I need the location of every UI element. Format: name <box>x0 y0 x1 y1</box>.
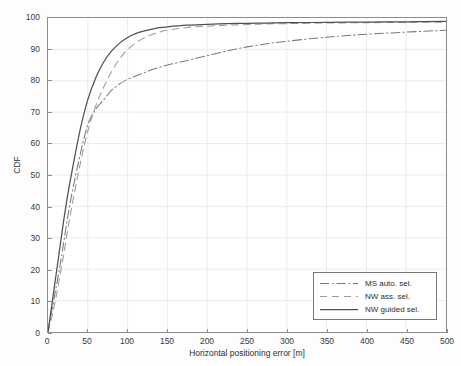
x-tick-label: 450 <box>400 336 414 346</box>
legend-line-sample <box>319 291 359 302</box>
legend-label: NW guided sel. <box>365 305 419 314</box>
legend-label: NW ass. sel. <box>365 292 410 301</box>
y-tick-mark <box>48 207 52 208</box>
x-tick-mark <box>127 329 128 333</box>
y-tick-mark <box>48 301 52 302</box>
y-tick-mark <box>48 112 52 113</box>
x-tick-mark <box>167 329 168 333</box>
x-tick-label: 300 <box>280 336 294 346</box>
y-tick-mark <box>48 49 52 50</box>
legend: MS auto. sel.NW ass. sel.NW guided sel. <box>313 272 437 320</box>
x-tick-label: 200 <box>200 336 214 346</box>
y-tick-label: 30 <box>6 233 40 243</box>
x-tick-label: 100 <box>120 336 134 346</box>
y-tick-label: 40 <box>6 202 40 212</box>
y-tick-label: 100 <box>6 12 40 22</box>
x-tick-mark <box>247 329 248 333</box>
x-tick-mark <box>367 329 368 333</box>
legend-line-sample <box>319 278 359 289</box>
x-axis-label: Horizontal positioning error [m] <box>47 348 447 358</box>
x-tick-mark <box>287 329 288 333</box>
y-tick-mark <box>48 175 52 176</box>
y-tick-mark <box>48 17 52 18</box>
x-tick-label: 150 <box>160 336 174 346</box>
x-tick-mark <box>87 329 88 333</box>
legend-label: MS auto. sel. <box>365 279 412 288</box>
y-axis-label: CDF <box>12 135 22 195</box>
x-tick-label: 500 <box>440 336 454 346</box>
legend-item-1: NW ass. sel. <box>319 290 431 303</box>
y-tick-mark <box>48 238 52 239</box>
x-tick-mark <box>327 329 328 333</box>
x-tick-label: 0 <box>45 336 50 346</box>
x-tick-label: 250 <box>240 336 254 346</box>
x-tick-mark <box>447 329 448 333</box>
y-tick-label: 0 <box>6 328 40 338</box>
x-tick-label: 350 <box>320 336 334 346</box>
x-tick-mark <box>207 329 208 333</box>
cdf-chart-figure: 0501001502002503003504004505000102030405… <box>0 0 461 366</box>
x-tick-label: 400 <box>360 336 374 346</box>
y-tick-label: 20 <box>6 265 40 275</box>
y-tick-label: 70 <box>6 107 40 117</box>
y-tick-label: 10 <box>6 296 40 306</box>
y-tick-label: 80 <box>6 75 40 85</box>
x-tick-label: 50 <box>82 336 91 346</box>
legend-item-0: MS auto. sel. <box>319 277 431 290</box>
y-tick-mark <box>48 270 52 271</box>
x-tick-mark <box>407 329 408 333</box>
y-tick-label: 90 <box>6 44 40 54</box>
y-tick-mark <box>48 80 52 81</box>
y-tick-mark <box>48 143 52 144</box>
legend-line-sample <box>319 304 359 315</box>
y-tick-mark <box>48 333 52 334</box>
legend-item-2: NW guided sel. <box>319 303 431 316</box>
